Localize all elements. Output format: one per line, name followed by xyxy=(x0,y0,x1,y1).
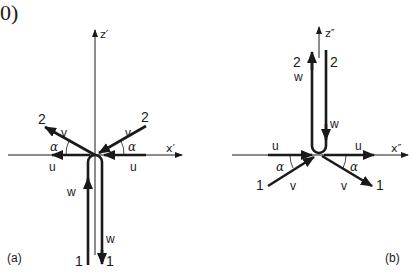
diagram-a: z′ x′ 2 2 v v α α u u w w 1 1 (a) xyxy=(7,28,182,269)
alpha-right-a: α xyxy=(128,140,136,154)
diagram-b: z″ x″ 2 2 w w u u α α 1 1 v v (b) xyxy=(232,27,408,265)
stream-id-left-a: 2 xyxy=(38,111,46,127)
stream-id-left-b: 1 xyxy=(256,177,264,193)
v-label-right-b: v xyxy=(341,179,347,193)
figure: 0) z′ x′ 2 2 v v α α u u w w 1 1 (a) z″ … xyxy=(0,0,413,274)
alpha-left-b: α xyxy=(276,160,284,174)
stream-id-down-b: 2 xyxy=(330,54,338,70)
panel-label-a: (a) xyxy=(7,251,22,265)
jet-b-u-path xyxy=(312,50,326,153)
w-label-down-b: w xyxy=(329,117,339,131)
u-label-right-b: u xyxy=(355,139,362,153)
stream-id-in-a: 1 xyxy=(75,253,83,269)
panel-label-b: (b) xyxy=(385,251,400,265)
u-label-left-b: u xyxy=(272,139,279,153)
alpha-left-a: α xyxy=(50,140,58,154)
u-label-left-a: u xyxy=(49,160,56,174)
stream-id-right-a: 2 xyxy=(141,109,149,125)
x-axis-label-b: x″ xyxy=(391,142,402,155)
stream-id-up-b: 2 xyxy=(293,54,301,70)
right-branch-a xyxy=(99,126,146,153)
z-axis-label-b: z″ xyxy=(325,27,335,40)
z-axis-label-a: z′ xyxy=(100,28,109,41)
w-label-up-b: w xyxy=(293,70,303,84)
right-branch-b xyxy=(322,156,372,186)
w-label-in-a: w xyxy=(66,185,76,199)
v-label-right-a: v xyxy=(125,126,131,140)
u-label-right-a: u xyxy=(130,160,137,174)
header-fragment: 0) xyxy=(0,0,18,25)
stream-id-out-a: 1 xyxy=(106,253,114,269)
alpha-right-b: α xyxy=(350,160,358,174)
v-label-left-a: v xyxy=(61,126,67,140)
v-label-left-b: v xyxy=(290,179,296,193)
w-label-out-a: w xyxy=(105,232,115,246)
x-axis-label-a: x′ xyxy=(166,142,176,155)
stream-id-right-b: 1 xyxy=(376,177,384,193)
